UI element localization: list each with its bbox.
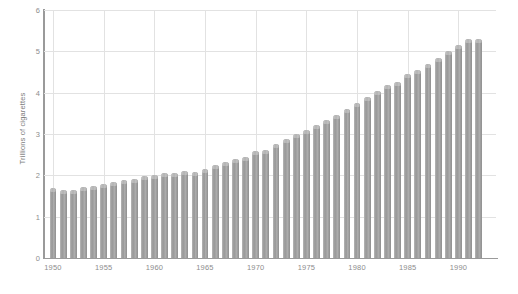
bar (222, 162, 229, 258)
bar-cap (161, 173, 168, 177)
bar-cap (414, 70, 421, 74)
bar-cap (364, 97, 371, 101)
bar (121, 180, 128, 259)
bar-cap (80, 187, 87, 191)
bar (364, 97, 371, 258)
bar-cap (475, 39, 482, 43)
bar-cap (100, 184, 107, 188)
plot-area (44, 10, 496, 258)
bar-cap (344, 109, 351, 113)
y-tick-label: 6 (24, 6, 40, 15)
bar (283, 139, 290, 258)
bar-cap (181, 171, 188, 175)
x-tick-label: 1970 (247, 263, 265, 272)
bar-cap (262, 150, 269, 154)
bar-cap (242, 157, 249, 161)
bar (394, 82, 401, 258)
bar-cap (212, 165, 219, 169)
bar (425, 64, 432, 258)
bar-cap (323, 120, 330, 124)
bar-cap (283, 139, 290, 143)
bar (50, 188, 57, 258)
bar (100, 184, 107, 258)
bar (404, 74, 411, 258)
y-tick-label: 1 (24, 212, 40, 221)
bar (323, 120, 330, 259)
bar (161, 173, 168, 258)
y-tick-label: 3 (24, 130, 40, 139)
bar-cap (232, 159, 239, 163)
bar-cap (354, 103, 361, 107)
bar (445, 51, 452, 258)
bar-cap (303, 130, 310, 134)
gridline-horizontal (44, 10, 496, 11)
bar-cap (404, 74, 411, 78)
bar-cap (455, 45, 462, 49)
bar (60, 190, 67, 258)
bar (242, 157, 249, 258)
x-axis-line (43, 258, 498, 259)
bar (455, 45, 462, 258)
bar (90, 186, 97, 258)
x-tick-label: 1980 (348, 263, 366, 272)
bar (273, 144, 280, 258)
bar-cap (110, 182, 117, 186)
bar-cap (70, 190, 77, 194)
bar (131, 179, 138, 258)
bar-cap (374, 91, 381, 95)
bar (293, 134, 300, 258)
bar (252, 151, 259, 259)
bar-cap (313, 125, 320, 129)
bar-cap (151, 175, 158, 179)
bar-cap (293, 134, 300, 138)
bar-cap (435, 58, 442, 62)
y-tick-label: 0 (24, 254, 40, 263)
bar (435, 58, 442, 259)
y-tick-label: 2 (24, 171, 40, 180)
x-tick-label: 1990 (450, 263, 468, 272)
bar-cap (222, 162, 229, 166)
bar (384, 85, 391, 258)
bar (110, 182, 117, 258)
bar-cap (171, 173, 178, 177)
bar-cap (465, 39, 472, 43)
bar (171, 173, 178, 258)
bar-cap (384, 85, 391, 89)
x-tick-label: 1950 (44, 263, 62, 272)
gridline-horizontal (44, 51, 496, 52)
bar-cap (192, 172, 199, 176)
bar (212, 165, 219, 258)
bar-cap (445, 51, 452, 55)
bar (465, 39, 472, 258)
bar-cap (273, 144, 280, 148)
bar (344, 109, 351, 258)
bar (374, 91, 381, 258)
x-tick-label: 1955 (95, 263, 113, 272)
bar-cap (60, 190, 67, 194)
bar (354, 103, 361, 258)
bar-cap (252, 151, 259, 155)
bar (313, 125, 320, 258)
y-tick-label: 4 (24, 88, 40, 97)
x-tick-label: 1965 (196, 263, 214, 272)
bar (202, 169, 209, 258)
bar-cap (90, 186, 97, 190)
bar-cap (394, 82, 401, 86)
x-tick-label: 1985 (399, 263, 417, 272)
x-tick-label: 1975 (298, 263, 316, 272)
bar-cap (202, 169, 209, 173)
bar (333, 115, 340, 258)
x-tick-label: 1960 (146, 263, 164, 272)
bar-cap (121, 180, 128, 184)
bar-cap (333, 115, 340, 119)
bar (181, 171, 188, 258)
bar (192, 172, 199, 258)
bar-cap (425, 64, 432, 68)
bar (262, 150, 269, 258)
bar (414, 70, 421, 258)
y-tick-label: 5 (24, 47, 40, 56)
bar-cap (141, 176, 148, 180)
bar (303, 130, 310, 258)
bar (70, 190, 77, 258)
bar (80, 187, 87, 258)
